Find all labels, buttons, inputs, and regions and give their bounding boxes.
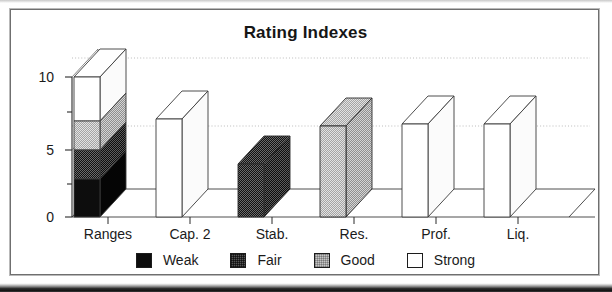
legend-label-weak: Weak xyxy=(163,252,199,268)
y-tick-label-5: 5 xyxy=(24,142,54,158)
x-label-res: Res. xyxy=(309,226,399,242)
bar-liq-front xyxy=(484,124,510,217)
legend-item-good[interactable]: Good xyxy=(314,252,375,268)
bar-stab[interactable] xyxy=(238,136,290,217)
scanned-page: Rating Indexes xyxy=(0,0,612,292)
x-label-stab: Stab. xyxy=(227,226,317,242)
scan-edge-top xyxy=(0,0,612,3)
x-label-prof: Prof. xyxy=(391,226,481,242)
bar-ranges-seg-weak-front xyxy=(74,179,100,217)
legend-swatch-fair xyxy=(230,253,246,268)
legend-swatch-good xyxy=(314,253,330,268)
bar-chart-svg xyxy=(10,9,601,249)
legend-label-strong: Strong xyxy=(434,252,475,268)
legend-label-fair: Fair xyxy=(257,252,281,268)
bar-cap2[interactable] xyxy=(156,91,208,217)
bar-cap2-front xyxy=(156,119,182,217)
bar-ranges-seg-strong-front xyxy=(74,77,100,121)
bar-prof[interactable] xyxy=(402,96,454,217)
x-label-liq: Liq. xyxy=(473,226,563,242)
x-axis-ticks xyxy=(108,217,518,224)
bar-prof-front xyxy=(402,124,428,217)
bar-liq[interactable] xyxy=(484,96,536,217)
x-label-ranges: Ranges xyxy=(63,226,153,242)
bar-res-front xyxy=(320,126,346,217)
scan-edge-bottom xyxy=(0,283,612,292)
legend-item-fair[interactable]: Fair xyxy=(230,252,281,268)
y-tick-label-10: 10 xyxy=(24,69,54,85)
bar-res[interactable] xyxy=(320,98,372,217)
x-label-cap2: Cap. 2 xyxy=(145,226,235,242)
chart-frame: Rating Indexes xyxy=(9,8,600,276)
plot-area: 10 5 0 Ranges Cap. 2 Stab. Res. Prof. Li… xyxy=(10,9,601,277)
bar-ranges-seg-fair-front xyxy=(74,150,100,179)
chart-legend: Weak Fair Good Strong xyxy=(10,252,601,268)
y-tick-label-0: 0 xyxy=(24,209,54,225)
legend-swatch-weak xyxy=(136,253,152,268)
legend-label-good: Good xyxy=(341,252,375,268)
legend-swatch-strong xyxy=(407,253,423,268)
y-axis xyxy=(65,77,72,217)
legend-item-weak[interactable]: Weak xyxy=(136,252,199,268)
bar-ranges-seg-good-front xyxy=(74,121,100,150)
legend-item-strong[interactable]: Strong xyxy=(407,252,475,268)
bar-stab-front xyxy=(238,164,264,217)
bar-ranges[interactable] xyxy=(74,49,126,217)
